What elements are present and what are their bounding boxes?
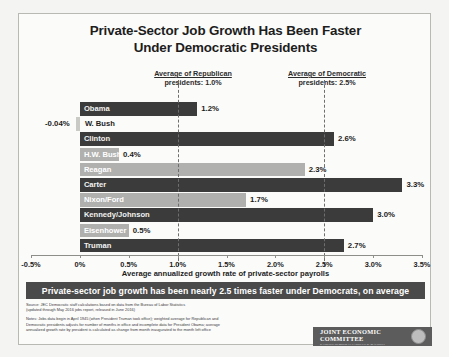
bar-row: H.W. Bush0.4%	[19, 148, 432, 162]
summary-banner: Private-sector job growth has been nearl…	[26, 282, 425, 299]
bar-row: Obama1.2%	[19, 102, 432, 116]
congressional-seal-icon	[411, 329, 426, 344]
x-tick	[129, 255, 130, 258]
bar-label: H.W. Bush	[84, 150, 122, 159]
chart-title: Private-Sector Job Growth Has Been Faste…	[19, 23, 432, 56]
bar-label: Clinton	[84, 134, 110, 143]
democratic-average-line2: presidents: 2.5%	[269, 78, 385, 87]
bar-w-bush	[76, 117, 80, 131]
x-tick-label: 2.0%	[267, 260, 284, 269]
bar-label: Nixon/Ford	[84, 195, 124, 204]
bar-label: Reagan	[84, 165, 111, 174]
x-tick-label: 1.0%	[169, 260, 186, 269]
bar-label: Eisenhower	[84, 226, 127, 235]
bar-value-label: 3.3%	[406, 180, 424, 189]
bar-clinton	[80, 132, 334, 146]
bar-row: Clinton2.6%	[19, 132, 432, 146]
x-tick-label: 0%	[75, 260, 86, 269]
bar-label: Carter	[84, 180, 106, 189]
chart-page: Private-Sector Job Growth Has Been Faste…	[0, 0, 449, 357]
x-tick	[227, 255, 228, 258]
x-tick	[275, 255, 276, 258]
bar-value-label: 1.2%	[201, 104, 219, 113]
bar-value-label: 3.0%	[377, 210, 395, 219]
footnotes: Source: JEC Democratic staff calculation…	[26, 302, 298, 333]
jec-logo: JOINT ECONOMIC COMMITTEE RANKING DEMOCRA…	[313, 327, 432, 346]
bar-label: W. Bush	[85, 119, 115, 128]
bar-value-label: 2.6%	[338, 134, 356, 143]
republican-average-annotation: Average of Republican presidents: 1.0%	[137, 69, 249, 87]
bar-label: Kennedy/Johnson	[84, 210, 150, 219]
chart-title-line2: Under Democratic Presidents	[19, 40, 432, 57]
x-tick	[422, 255, 423, 258]
republican-average-line1: Average of Republican	[137, 69, 249, 78]
bar-truman	[80, 239, 344, 253]
bars-container: Obama1.2%W. Bush-0.04%Clinton2.6%H.W. Bu…	[19, 102, 432, 255]
bar-label: Obama	[84, 104, 110, 113]
x-tick-label: 3.5%	[414, 260, 431, 269]
x-tick	[31, 255, 32, 258]
x-tick	[373, 255, 374, 258]
democratic-average-reference-line	[324, 80, 325, 266]
jec-logo-text: JOINT ECONOMIC COMMITTEE RANKING DEMOCRA…	[320, 328, 411, 346]
bar-label: Truman	[84, 241, 111, 250]
bar-row: Truman2.7%	[19, 239, 432, 253]
bar-carter	[80, 178, 403, 192]
bar-value-label: 1.7%	[250, 195, 268, 204]
x-axis: -0.5%0%0.5%1.0%1.5%2.0%2.5%3.0%3.5%	[19, 255, 432, 257]
chart-card: Private-Sector Job Growth Has Been Faste…	[18, 13, 431, 345]
x-tick-label: 3.0%	[365, 260, 382, 269]
bar-row: Kennedy/Johnson3.0%	[19, 208, 432, 222]
bar-row: Eisenhower0.5%	[19, 224, 432, 238]
plot-area: Obama1.2%W. Bush-0.04%Clinton2.6%H.W. Bu…	[19, 102, 432, 255]
x-tick-label: 2.5%	[316, 260, 333, 269]
democratic-average-annotation: Average of Democratic presidents: 2.5%	[269, 69, 385, 87]
x-tick	[178, 255, 179, 258]
x-tick-label: 0.5%	[120, 260, 137, 269]
notes-line-3: annualized growth rate by president is c…	[26, 327, 298, 332]
bar-row: Reagan2.3%	[19, 163, 432, 177]
democratic-average-line1: Average of Democratic	[269, 69, 385, 78]
jec-logo-subtitle: RANKING DEMOCRAT CAROLYN B. MALONEY	[320, 343, 411, 346]
x-axis-title: Average annualized growth rate of privat…	[19, 269, 432, 278]
republican-average-line2: presidents: 1.0%	[137, 78, 249, 87]
republican-average-reference-line	[178, 80, 179, 266]
bar-value-label: 0.4%	[123, 150, 141, 159]
x-tick-label: -0.5%	[21, 260, 40, 269]
x-tick	[80, 255, 81, 258]
bar-value-label: 0.5%	[133, 226, 151, 235]
x-tick-label: 1.5%	[218, 260, 235, 269]
chart-title-line1: Private-Sector Job Growth Has Been Faste…	[19, 23, 432, 40]
bar-row: Nixon/Ford1.7%	[19, 193, 432, 207]
bar-row: W. Bush-0.04%	[19, 117, 432, 131]
jec-logo-title: JOINT ECONOMIC COMMITTEE	[320, 328, 411, 342]
x-tick	[324, 255, 325, 258]
bar-value-label: -0.04%	[45, 119, 70, 128]
bar-reagan	[80, 163, 305, 177]
bar-row: Carter3.3%	[19, 178, 432, 192]
summary-banner-text: Private-sector job growth has been nearl…	[42, 286, 409, 296]
bar-value-label: 2.7%	[348, 241, 366, 250]
